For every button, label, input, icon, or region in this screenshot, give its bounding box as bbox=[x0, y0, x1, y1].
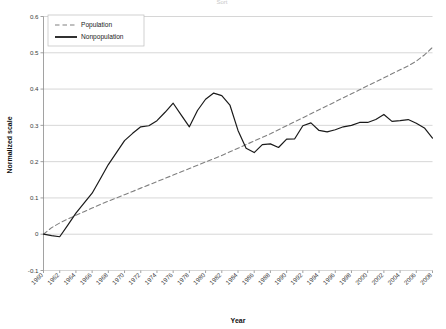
y-tick-label: 0.4 bbox=[30, 85, 39, 92]
y-tick-label: 0.6 bbox=[30, 13, 39, 20]
x-tick-label: 1986 bbox=[240, 271, 255, 286]
y-tick-label: 0 bbox=[35, 230, 39, 237]
y-tick-label: 0.5 bbox=[30, 49, 39, 56]
x-tick-label: 1962 bbox=[46, 271, 61, 286]
x-tick-label: 1982 bbox=[208, 271, 223, 286]
x-tick-label: 2000 bbox=[354, 271, 369, 286]
x-tick-label: 1990 bbox=[273, 271, 288, 286]
chart-container: 0.60.50.40.30.20.10-0.1 1960196219641966… bbox=[0, 0, 446, 329]
x-tick-label: 1970 bbox=[111, 271, 126, 286]
x-tick-label: 1968 bbox=[94, 271, 109, 286]
x-tick-label: 1988 bbox=[256, 271, 271, 286]
gridlines bbox=[44, 17, 433, 271]
x-tick-label: 2004 bbox=[386, 271, 401, 286]
line-chart: 0.60.50.40.30.20.10-0.1 1960196219641966… bbox=[0, 0, 446, 329]
series-line-nonpopulation bbox=[44, 93, 433, 237]
y-axis-title: Normalized scale bbox=[6, 116, 13, 173]
x-tick-label: 1974 bbox=[143, 271, 158, 286]
x-tick-label: 1978 bbox=[175, 271, 190, 286]
x-tick-label: 1976 bbox=[159, 271, 174, 286]
series-line-population bbox=[44, 47, 433, 234]
x-axis-title: Year bbox=[231, 317, 246, 324]
y-tick-label: 0.2 bbox=[30, 158, 39, 165]
y-tick-label: 0.3 bbox=[30, 122, 39, 129]
x-tick-label: 1998 bbox=[337, 271, 352, 286]
x-tick-label: 1964 bbox=[62, 271, 77, 286]
x-tick-label: 1994 bbox=[305, 271, 320, 286]
legend-box bbox=[48, 15, 144, 46]
x-axis-tick-labels: 1960196219641966196819701972197419761978… bbox=[30, 271, 434, 286]
x-tick-label: 1972 bbox=[127, 271, 142, 286]
legend-label-nonpopulation: Nonpopulation bbox=[81, 33, 124, 41]
x-tick-label: 1980 bbox=[192, 271, 207, 286]
x-tick-label: 1992 bbox=[289, 271, 304, 286]
x-tick-label: 2008 bbox=[419, 271, 434, 286]
x-tick-label: 2002 bbox=[370, 271, 385, 286]
y-axis-tick-labels: 0.60.50.40.30.20.10-0.1 bbox=[28, 13, 44, 274]
x-tick-label: 1984 bbox=[224, 271, 239, 286]
chart-title: Sort bbox=[216, 0, 227, 5]
legend-label-population: Population bbox=[81, 21, 112, 29]
x-tick-label: 1966 bbox=[78, 271, 93, 286]
x-tick-label: 1996 bbox=[321, 271, 336, 286]
y-tick-label: 0.1 bbox=[30, 194, 39, 201]
x-tick-label: 2006 bbox=[402, 271, 417, 286]
data-series bbox=[44, 47, 433, 236]
chart-legend: PopulationNonpopulation bbox=[48, 15, 144, 46]
